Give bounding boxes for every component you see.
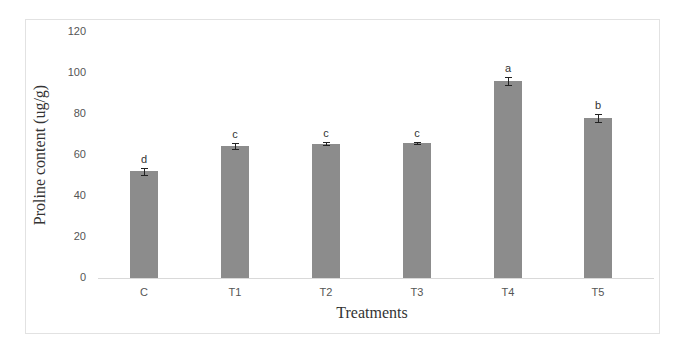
significance-letter: c	[407, 127, 427, 139]
error-bar	[144, 168, 145, 175]
significance-letter: a	[498, 62, 518, 74]
error-cap	[141, 168, 148, 169]
y-tick-label: 100	[56, 66, 86, 78]
bar-t2	[312, 144, 340, 278]
error-cap	[232, 143, 239, 144]
error-bar	[598, 114, 599, 121]
bar-t4	[494, 81, 522, 278]
error-cap	[414, 144, 421, 145]
x-tick-label: T2	[306, 286, 346, 298]
bar-t1	[221, 146, 249, 278]
significance-letter: b	[588, 99, 608, 111]
x-tick-label: T3	[397, 286, 437, 298]
error-cap	[323, 145, 330, 146]
y-axis-label: Proline content (ug/g)	[31, 85, 49, 225]
y-tick-label: 120	[56, 25, 86, 37]
y-tick-label: 60	[56, 148, 86, 160]
bar-t3	[403, 143, 431, 278]
y-tick-label: 20	[56, 230, 86, 242]
error-cap	[595, 122, 602, 123]
y-tick-label: 80	[56, 107, 86, 119]
error-cap	[505, 77, 512, 78]
error-cap	[232, 149, 239, 150]
y-tick-label: 0	[56, 271, 86, 283]
significance-letter: c	[316, 127, 336, 139]
error-cap	[141, 175, 148, 176]
error-cap	[414, 142, 421, 143]
x-tick-label: T4	[488, 286, 528, 298]
error-cap	[505, 85, 512, 86]
x-axis-line	[98, 278, 654, 279]
significance-letter: d	[134, 153, 154, 165]
significance-letter: c	[225, 128, 245, 140]
bar-c	[130, 171, 158, 278]
y-tick-label: 40	[56, 189, 86, 201]
x-tick-label: C	[124, 286, 164, 298]
error-cap	[323, 142, 330, 143]
x-tick-label: T1	[215, 286, 255, 298]
x-axis-label: Treatments	[336, 304, 407, 322]
bar-t5	[584, 118, 612, 278]
x-tick-label: T5	[578, 286, 618, 298]
error-cap	[595, 114, 602, 115]
error-bar	[508, 77, 509, 85]
